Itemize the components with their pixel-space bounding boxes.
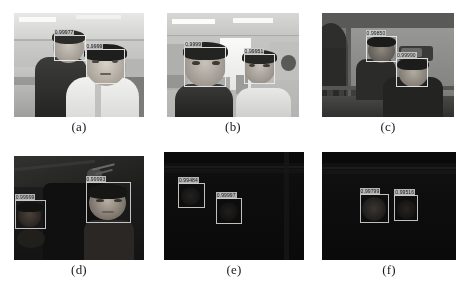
panel-d: 0.99999 0.99993 bbox=[14, 156, 144, 260]
detection-score-label: 0.99951 bbox=[244, 48, 265, 55]
panel-f-image: 0.99799 0.99516 bbox=[322, 152, 456, 260]
panel-a: 0.99977 0.9999 bbox=[14, 13, 144, 117]
panel-caption-a: (a) bbox=[14, 119, 144, 135]
detection-box: 0.9999 bbox=[184, 47, 226, 87]
panel-a-image: 0.99977 0.9999 bbox=[14, 13, 144, 117]
detection-score-label: 0.99990 bbox=[396, 52, 417, 59]
detection-score-label: 0.99999 bbox=[15, 194, 36, 201]
panel-e: 0.99484 0.99997 bbox=[164, 152, 304, 260]
panel-caption-d: (d) bbox=[14, 262, 144, 278]
detection-score-label: 0.99993 bbox=[86, 176, 107, 183]
detection-box: 0.99951 bbox=[244, 54, 276, 84]
panel-caption-b: (b) bbox=[167, 119, 299, 135]
panel-e-image: 0.99484 0.99997 bbox=[164, 152, 304, 260]
detection-box: 0.9999 bbox=[86, 49, 125, 83]
detection-score-label: 0.99516 bbox=[394, 189, 415, 196]
panel-b-image: 0.9999 0.99951 bbox=[167, 13, 299, 117]
detection-box: 0.99799 bbox=[360, 194, 389, 223]
detection-box: 0.99516 bbox=[394, 195, 418, 221]
detection-score-label: 0.99977 bbox=[54, 29, 75, 36]
detection-box: 0.99977 bbox=[54, 35, 87, 62]
panel-b: 0.9999 0.99951 bbox=[167, 13, 299, 117]
detection-box: 0.99990 bbox=[396, 58, 428, 87]
detection-box: 0.99993 bbox=[86, 182, 132, 223]
panel-f: 0.99799 0.99516 bbox=[322, 152, 456, 260]
panel-d-image: 0.99999 0.99993 bbox=[14, 156, 144, 260]
detection-box: 0.99997 bbox=[216, 198, 243, 224]
detection-box: 0.99999 bbox=[15, 200, 46, 229]
panel-c-image: 0.99850 0.99990 bbox=[322, 13, 454, 117]
detection-box: 0.99850 bbox=[366, 36, 398, 62]
panel-caption-f: (f) bbox=[322, 262, 456, 278]
figure-face-detection-grid: 0.99977 0.9999 (a) bbox=[0, 0, 471, 287]
panel-c: 0.99850 0.99990 bbox=[322, 13, 454, 117]
detection-score-label: 0.99484 bbox=[178, 177, 199, 184]
detection-score-label: 0.9999 bbox=[86, 43, 104, 50]
detection-score-label: 0.9999 bbox=[184, 41, 202, 48]
panel-caption-c: (c) bbox=[322, 119, 454, 135]
detection-score-label: 0.99850 bbox=[366, 30, 387, 37]
detection-score-label: 0.99997 bbox=[216, 192, 237, 199]
detection-score-label: 0.99799 bbox=[360, 188, 381, 195]
panel-caption-e: (e) bbox=[164, 262, 304, 278]
detection-box: 0.99484 bbox=[178, 183, 205, 208]
